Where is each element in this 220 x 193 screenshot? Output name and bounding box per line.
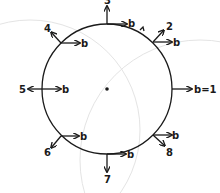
vector-label-7: b (127, 149, 134, 160)
vector-label-2: b (173, 37, 180, 48)
point-4: b 4 (44, 23, 88, 49)
vector-label-1: b=1 (194, 84, 217, 95)
number-label-8: 8 (166, 147, 173, 158)
point-1: b=1 (172, 84, 217, 95)
circle-vector-diagram: b=1 b 2 b 3 b 4 b 5 b 6 b 7 (0, 0, 220, 193)
arc-direction-arrow (140, 27, 144, 31)
center-dot (105, 87, 109, 91)
point-7: b 7 (104, 149, 134, 185)
number-label-7: 7 (104, 174, 111, 185)
point-5: b 5 (19, 84, 69, 95)
point-8: b 8 (153, 130, 179, 158)
number-label-5: 5 (19, 84, 26, 95)
point-3: b 3 (104, 0, 135, 29)
background-arcs (0, 20, 220, 193)
vector-label-3: b (128, 18, 135, 29)
number-label-2: 2 (166, 21, 173, 32)
number-label-4: 4 (44, 23, 51, 34)
vector-label-6: b (80, 131, 87, 142)
vector-label-4: b (81, 38, 88, 49)
point-2: b 2 (153, 21, 180, 48)
vector-label-8: b (172, 130, 179, 141)
vector-label-5: b (62, 84, 69, 95)
number-label-6: 6 (44, 147, 51, 158)
number-label-3: 3 (104, 0, 111, 6)
